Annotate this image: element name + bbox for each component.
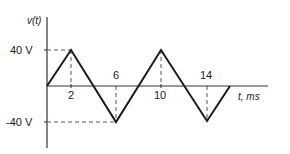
triangle-waveform-chart: v(t) 40 V -40 V 2 6 10 14 t, ms [0,0,290,154]
y-label-40v: 40 V [10,44,33,56]
x-label-2: 2 [68,89,74,101]
y-axis-label: v(t) [27,15,41,26]
x-label-6: 6 [113,69,119,81]
x-label-14: 14 [200,69,212,81]
x-label-10: 10 [154,89,166,101]
y-label-neg40v: -40 V [6,116,33,128]
x-axis-label: t, ms [238,91,260,102]
